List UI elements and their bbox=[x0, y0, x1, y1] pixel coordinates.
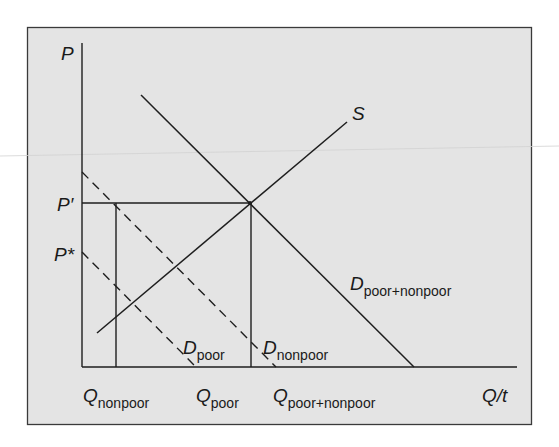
p-star-label: P* bbox=[54, 244, 75, 265]
x-axis-label: Q/t bbox=[482, 385, 508, 406]
supply-demand-diagram: P Q/t P′ P* S Dpoor Dnonpoor Dpoor+nonpo… bbox=[0, 0, 559, 447]
supply-label: S bbox=[352, 103, 365, 124]
figure-frame bbox=[28, 28, 532, 425]
equilibrium-point bbox=[248, 201, 252, 205]
p-prime-label: P′ bbox=[57, 194, 75, 215]
y-axis-label: P bbox=[61, 43, 74, 64]
